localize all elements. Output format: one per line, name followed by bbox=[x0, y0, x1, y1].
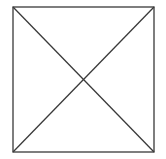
diagram-canvas bbox=[0, 0, 166, 159]
